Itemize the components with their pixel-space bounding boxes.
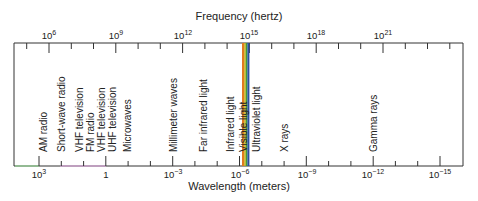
- wavelength-tick-label: 10−15: [429, 168, 452, 180]
- wavelength-tick-label: 10−6: [231, 168, 250, 180]
- frequency-tick-label: 1012: [174, 29, 192, 41]
- wavelength-tick-label: 103: [32, 168, 47, 180]
- frequency-tick-label: 106: [42, 29, 57, 41]
- electromagnetic-spectrum-diagram: Frequency (hertz) Wavelength (meters) 10…: [0, 0, 478, 201]
- region-label: Far infrared light: [198, 79, 209, 152]
- frequency-tick-label: 1015: [240, 29, 258, 41]
- wavelength-ticks: [39, 156, 440, 166]
- region-label: X rays: [279, 124, 290, 152]
- region-label: Short-wave radio: [56, 76, 67, 152]
- frequency-tick-label: 1021: [374, 29, 392, 41]
- region-label: Visible light: [238, 101, 249, 152]
- region-label: VHF television: [74, 88, 85, 152]
- region-label: UHF television: [107, 87, 118, 152]
- region-label: VHF television: [96, 88, 107, 152]
- region-label: AM radio: [38, 112, 49, 152]
- spectrum-region-labels: AM radioShort-wave radioVHF televisionFM…: [38, 76, 379, 152]
- region-label: Millimeter waves: [168, 78, 179, 152]
- frequency-tick-label: 1018: [307, 29, 325, 41]
- region-label: FM radio: [85, 112, 96, 152]
- wavelength-tick-labels: 103110−310−610−910−1210−15: [32, 168, 452, 180]
- wavelength-tick-label: 10−9: [298, 168, 317, 180]
- frequency-tick-labels: 1061091012101510181021: [42, 29, 393, 41]
- wavelength-tick-label: 1: [103, 169, 108, 180]
- wavelength-tick-label: 10−12: [362, 168, 385, 180]
- wavelength-tick-label: 10−3: [164, 168, 183, 180]
- frequency-ticks: [27, 43, 450, 53]
- region-label: Infrared light: [225, 96, 236, 152]
- frequency-axis-title: Frequency (hertz): [196, 10, 283, 22]
- region-label: Ultraviolet light: [251, 86, 262, 152]
- frequency-tick-label: 109: [109, 29, 124, 41]
- region-label: Microwaves: [122, 99, 133, 152]
- region-label: Gamma rays: [368, 95, 379, 152]
- wavelength-axis-title: Wavelength (meters): [188, 180, 290, 192]
